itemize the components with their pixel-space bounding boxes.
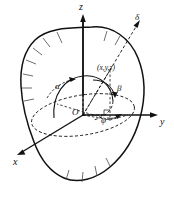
x-axis-label: x bbox=[13, 157, 17, 167]
coordinate-diagram-svg bbox=[0, 0, 174, 201]
phi-angle-label: φ bbox=[101, 116, 106, 125]
figure-container: z y x δ (x,y,z) α β φ O bbox=[0, 0, 174, 201]
delta-ray-label: δ bbox=[135, 13, 139, 22]
origin-label: O bbox=[72, 108, 79, 117]
z-axis-label: z bbox=[79, 2, 83, 12]
beta-angle-label: β bbox=[117, 84, 121, 93]
y-axis-label: y bbox=[160, 117, 164, 127]
origin-dot bbox=[82, 114, 84, 116]
alpha-angle-label: α bbox=[55, 82, 60, 91]
point-coordinates-label: (x,y,z) bbox=[97, 64, 115, 72]
